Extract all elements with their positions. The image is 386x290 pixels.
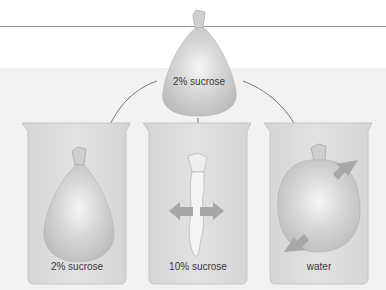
beaker-3-label: water — [270, 261, 368, 272]
beaker-1-label: 2% sucrose — [28, 261, 126, 272]
source-bag — [163, 10, 237, 116]
beaker-1 — [22, 123, 130, 284]
osmosis-diagram — [0, 0, 386, 290]
beaker-2 — [143, 123, 251, 284]
beaker-2-label: 10% sucrose — [149, 261, 247, 272]
source-bag-label: 2% sucrose — [163, 76, 235, 87]
beaker-3 — [264, 123, 372, 284]
